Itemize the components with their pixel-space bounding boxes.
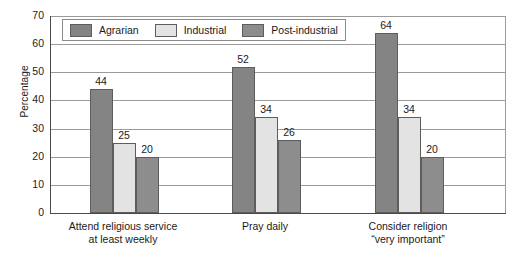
bar-post-industrial-group-3 [421,157,444,213]
x-axis-label-line: Consider religion [323,220,493,233]
bar-value-label: 52 [228,53,258,65]
y-axis-tick-70: 70 [16,9,44,21]
bar-value-label: 20 [132,143,162,155]
bar-chart: Percentage 706050403020100 4425205234266… [0,0,522,264]
x-axis-label-line: “very important” [323,233,493,246]
bar-value-label: 64 [371,19,401,31]
plot-area: 442520523426643420 [50,16,506,214]
bar-post-industrial-group-1 [136,157,159,213]
bar-post-industrial-group-2 [278,140,301,213]
y-axis-tick-20: 20 [16,150,44,162]
gridline-40 [51,100,506,101]
bar-value-label: 25 [109,129,139,141]
y-axis-tick-50: 50 [16,65,44,77]
legend-item-agrarian[interactable]: Agrarian [70,24,139,37]
legend-label: Agrarian [99,24,139,36]
bar-industrial-group-3 [398,117,421,213]
bar-value-label: 26 [274,126,304,138]
legend-swatch-icon [242,24,264,37]
bar-value-label: 44 [86,75,116,87]
bar-agrarian-group-2 [232,67,255,213]
legend-swatch-icon [70,24,92,37]
plot-top-border [51,16,506,17]
bar-value-label: 20 [417,143,447,155]
chart-legend: AgrarianIndustrialPost-industrial [62,19,346,41]
y-axis-tick-40: 40 [16,93,44,105]
y-axis-tick-30: 30 [16,122,44,134]
plot-right-border [505,16,506,213]
legend-item-post-industrial[interactable]: Post-industrial [242,24,338,37]
bar-value-label: 34 [394,103,424,115]
x-axis-label-line: at least weekly [38,233,208,246]
gridline-60 [51,44,506,45]
y-axis-tick-60: 60 [16,37,44,49]
bar-agrarian-group-1 [90,89,113,213]
legend-label: Post-industrial [271,24,338,36]
legend-item-industrial[interactable]: Industrial [155,24,227,37]
gridline-50 [51,72,506,73]
y-axis-tick-10: 10 [16,178,44,190]
legend-label: Industrial [184,24,227,36]
bar-value-label: 34 [251,103,281,115]
legend-swatch-icon [155,24,177,37]
bar-agrarian-group-3 [375,33,398,213]
x-axis-label-group-3: Consider religion“very important” [323,220,493,246]
y-axis-tick-0: 0 [16,206,44,218]
